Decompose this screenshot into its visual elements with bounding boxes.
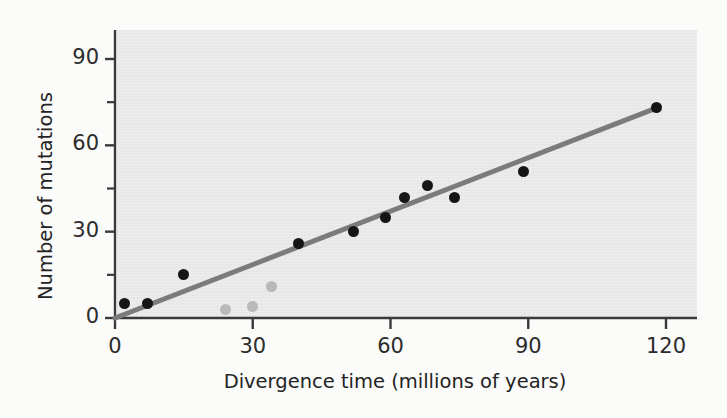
data-point-primary-data xyxy=(422,180,433,191)
data-point-primary-data xyxy=(142,298,153,309)
y-tick-label: 60 xyxy=(53,131,99,155)
y-tick-label: 0 xyxy=(53,304,99,328)
x-tick-label: 60 xyxy=(351,334,431,358)
y-axis-title: Number of mutations xyxy=(34,92,57,300)
data-point-outlier-data xyxy=(220,304,231,315)
y-tick-label: 30 xyxy=(53,218,99,242)
y-axis-ticks xyxy=(105,59,115,318)
figure-container: 03060900306090120 Number of mutations Di… xyxy=(0,0,727,418)
data-point-primary-data xyxy=(293,238,304,249)
data-point-outlier-data xyxy=(266,281,277,292)
x-tick-label: 30 xyxy=(213,334,293,358)
x-axis-ticks xyxy=(115,318,666,329)
x-tick-label: 0 xyxy=(75,334,155,358)
data-point-primary-data xyxy=(449,192,460,203)
axis-lines xyxy=(115,30,697,318)
x-tick-label: 120 xyxy=(626,334,706,358)
data-point-primary-data xyxy=(119,298,130,309)
x-axis-title: Divergence time (millions of years) xyxy=(0,370,727,393)
y-tick-label: 90 xyxy=(53,45,99,69)
data-point-primary-data xyxy=(518,166,529,177)
data-point-primary-data xyxy=(399,192,410,203)
x-tick-label: 90 xyxy=(488,334,568,358)
